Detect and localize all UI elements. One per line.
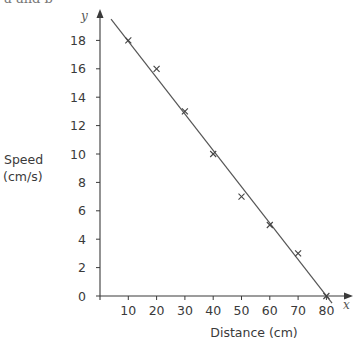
y-tick-label: 12 <box>70 118 86 133</box>
x-tick-label: 10 <box>120 303 136 318</box>
data-point-x-marker <box>295 250 301 256</box>
y-tick-label: 6 <box>78 203 86 218</box>
y-tick-label: 18 <box>70 33 86 48</box>
y-tick-label: 16 <box>70 61 86 76</box>
x-axis-variable: x <box>343 298 350 312</box>
axes <box>96 9 353 300</box>
y-axis-arrow-icon <box>97 9 104 18</box>
x-tick-label: 70 <box>290 303 306 318</box>
tick-labels: 0246810121416181020304050607080 <box>70 33 334 318</box>
y-tick-label: 14 <box>70 90 86 105</box>
x-tick-label: 30 <box>177 303 193 318</box>
speed-distance-chart: a and b 0246810121416181020304050607080 … <box>0 0 358 350</box>
x-tick-label: 40 <box>205 303 221 318</box>
x-tick-label: 20 <box>149 303 165 318</box>
top-text-fragment: a and b <box>4 0 53 6</box>
y-tick-label: 2 <box>78 260 86 275</box>
y-axis-title-line2: (cm/s) <box>3 169 43 184</box>
x-axis-title: Distance (cm) <box>210 325 297 340</box>
x-tick-label: 80 <box>318 303 334 318</box>
y-tick-label: 0 <box>78 289 86 304</box>
y-axis-variable: y <box>80 9 88 23</box>
data-point-x-marker <box>239 194 245 200</box>
y-axis-title-line1: Speed <box>4 152 43 167</box>
line-of-best-fit <box>111 19 332 303</box>
data-point-x-marker <box>154 66 160 72</box>
x-tick-label: 60 <box>262 303 278 318</box>
y-tick-label: 4 <box>78 232 86 247</box>
y-tick-label: 8 <box>78 175 86 190</box>
y-tick-label: 10 <box>70 147 86 162</box>
x-tick-label: 50 <box>234 303 250 318</box>
data-point-x-marker <box>125 37 131 43</box>
